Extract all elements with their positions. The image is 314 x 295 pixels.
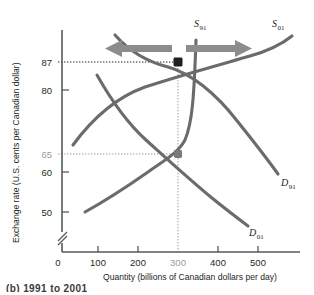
x-tick-label-500: 500 bbox=[250, 257, 266, 268]
curve-label-supply-1991: S91 bbox=[194, 18, 207, 32]
x-tick-label-100: 100 bbox=[90, 257, 106, 268]
equilibrium-point-1991 bbox=[174, 58, 183, 67]
y-tick-label-50: 50 bbox=[41, 207, 52, 218]
figure-caption-fragment: (b) 1991 to 2001 bbox=[6, 283, 87, 292]
guide-lines bbox=[58, 62, 178, 252]
chart-svg: 87 80 65 60 50 0 100 200 300 400 500 Exc… bbox=[0, 0, 314, 295]
x-axis-title: Quantity (billions of Canadian dollars p… bbox=[103, 272, 277, 282]
x-tick-label-200: 200 bbox=[130, 257, 146, 268]
y-tick-label-80: 80 bbox=[41, 85, 52, 96]
x-tick-label-300: 300 bbox=[170, 257, 186, 268]
y-axis-title: Exchange rate (U.S. cents per Canadian d… bbox=[11, 62, 21, 243]
curve-label-demand-1991: D91 bbox=[280, 177, 296, 191]
y-tick-label-87: 87 bbox=[41, 57, 52, 68]
shift-arrows bbox=[105, 40, 252, 57]
y-tick-label-60: 60 bbox=[41, 167, 52, 178]
x-tick-label-400: 400 bbox=[210, 257, 226, 268]
curve-label-supply-2001: S01 bbox=[272, 18, 285, 32]
exchange-rate-chart-figure: 87 80 65 60 50 0 100 200 300 400 500 Exc… bbox=[0, 0, 314, 295]
equilibrium-point-2001 bbox=[174, 150, 182, 158]
y-tick-marks bbox=[62, 90, 69, 212]
y-tick-label-65: 65 bbox=[41, 149, 52, 160]
curve-demand-2001 bbox=[97, 75, 248, 226]
x-tick-label-0: 0 bbox=[55, 257, 60, 268]
curve-label-demand-2001: D01 bbox=[248, 227, 264, 241]
